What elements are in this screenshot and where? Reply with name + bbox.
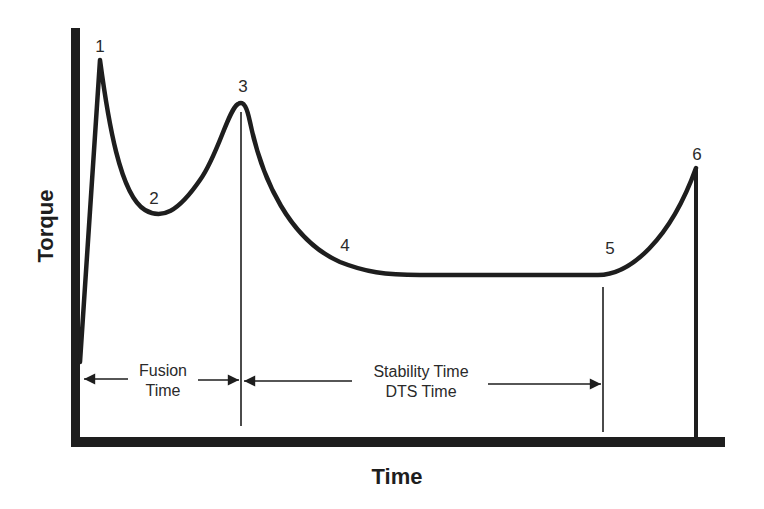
point-label-2: 2	[149, 189, 158, 208]
x-axis-label: Time	[372, 464, 423, 489]
torque-time-diagram: 1 2 3 4 5 6 Fusion Time Stability Time D…	[0, 0, 764, 509]
point-label-3: 3	[238, 77, 247, 96]
point-label-4: 4	[340, 236, 349, 255]
y-axis-label: Torque	[33, 190, 58, 263]
point-label-6: 6	[692, 145, 701, 164]
point-label-5: 5	[605, 239, 614, 258]
fusion-time-label-line2: Time	[146, 382, 181, 399]
y-axis	[71, 28, 80, 446]
x-axis	[71, 437, 725, 447]
dts-time-label-line2: DTS Time	[385, 383, 456, 400]
stability-time-label-line1: Stability Time	[373, 363, 468, 380]
point-label-1: 1	[95, 37, 104, 56]
fusion-time-label-line1: Fusion	[139, 362, 187, 379]
